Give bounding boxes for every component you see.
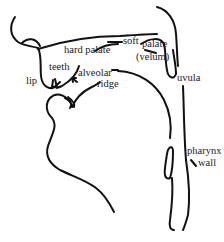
label-soft: soft	[123, 36, 139, 47]
label-velum: (velum)	[136, 52, 169, 63]
larynx-front	[170, 178, 174, 230]
label-pharynx: pharynx	[187, 146, 221, 157]
label-ridge: ridge	[97, 79, 119, 90]
vocal-tract-outline	[0, 0, 224, 242]
label-palate: palate	[142, 39, 167, 50]
label-uvula: uvula	[177, 73, 200, 84]
vocal-tract-diagram: hard palate soft palate (velum) lip teet…	[0, 0, 224, 242]
tongue-dorsum	[118, 71, 171, 138]
lower-lip-chin	[47, 95, 114, 212]
tongue	[72, 82, 100, 107]
pharynx-pointer	[191, 160, 196, 166]
epiglottis	[165, 147, 173, 178]
label-wall: wall	[198, 158, 216, 169]
label-lip: lip	[26, 76, 37, 87]
label-hard-palate: hard palate	[64, 45, 110, 56]
pharynx-wall	[183, 86, 189, 230]
label-teeth: teeth	[49, 62, 69, 73]
label-alveolar: alveolar	[78, 68, 112, 79]
